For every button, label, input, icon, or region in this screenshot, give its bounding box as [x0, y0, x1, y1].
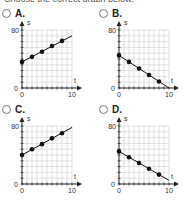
data-point	[60, 131, 65, 136]
data-point	[137, 161, 142, 166]
grid	[22, 126, 72, 184]
chart-a: 010080ts	[0, 8, 96, 104]
grid	[22, 30, 72, 88]
data-point	[50, 136, 55, 141]
x-tick-label: 10	[165, 91, 173, 98]
x-axis-arrow-icon	[174, 86, 179, 91]
grid	[119, 30, 169, 88]
data-point	[117, 149, 122, 154]
y-axis-label: s	[27, 115, 31, 122]
data-point	[20, 153, 25, 158]
data-point	[127, 60, 132, 65]
data-point	[147, 166, 152, 171]
data-point	[30, 55, 35, 60]
x-axis-arrow-icon	[77, 182, 82, 187]
data-point	[40, 142, 45, 147]
y-tick-label: 0	[14, 85, 18, 92]
x-axis-label: t	[74, 77, 76, 84]
question-prompt: Choose the correct graph below.	[4, 0, 154, 2]
x-axis-label: t	[171, 173, 173, 180]
y-tick-label: 0	[111, 181, 115, 188]
chart-b: 010080ts	[97, 8, 193, 104]
x-tick-label: 0	[117, 91, 121, 98]
x-tick-label: 0	[20, 91, 24, 98]
data-point	[60, 39, 65, 44]
y-axis-label: s	[124, 19, 128, 26]
data-point	[40, 49, 45, 54]
y-tick-label: 80	[11, 27, 19, 34]
grid	[119, 126, 169, 184]
x-axis-arrow-icon	[174, 182, 179, 187]
y-axis-label: s	[27, 19, 31, 26]
data-point	[50, 44, 55, 49]
x-tick-label: 10	[165, 187, 173, 194]
y-tick-label: 0	[111, 85, 115, 92]
data-point	[20, 60, 25, 65]
data-point	[117, 53, 122, 58]
x-axis-arrow-icon	[77, 86, 82, 91]
chart-c: 010080ts	[0, 104, 96, 204]
option-a[interactable]: A. 010080ts	[0, 8, 96, 108]
y-tick-label: 80	[108, 123, 116, 130]
option-b[interactable]: B. 010080ts	[97, 8, 193, 108]
data-point	[147, 73, 152, 78]
y-axis-arrow-icon	[117, 21, 122, 26]
x-tick-label: 0	[117, 187, 121, 194]
y-axis-arrow-icon	[117, 117, 122, 122]
y-axis-arrow-icon	[20, 117, 25, 122]
option-d[interactable]: D. 010080ts	[97, 104, 193, 204]
data-point	[157, 172, 162, 177]
data-point	[30, 147, 35, 152]
option-c[interactable]: C. 010080ts	[0, 104, 96, 204]
data-point	[157, 79, 162, 84]
data-point	[127, 155, 132, 160]
y-tick-label: 0	[14, 181, 18, 188]
y-tick-label: 80	[108, 27, 116, 34]
chart-d: 010080ts	[97, 104, 193, 204]
y-axis-arrow-icon	[20, 21, 25, 26]
x-tick-label: 0	[20, 187, 24, 194]
x-tick-label: 10	[68, 187, 76, 194]
x-axis-label: t	[74, 173, 76, 180]
x-axis-label: t	[171, 77, 173, 84]
y-axis-label: s	[124, 115, 128, 122]
y-tick-label: 80	[11, 123, 19, 130]
x-tick-label: 10	[68, 91, 76, 98]
data-point	[137, 66, 142, 71]
